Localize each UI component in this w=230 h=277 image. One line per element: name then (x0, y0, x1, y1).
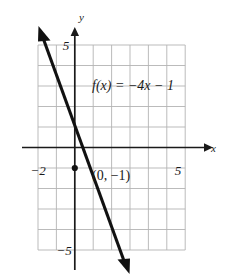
x-tick-label-5: 5 (175, 163, 182, 178)
y-axis-label: y (78, 11, 84, 23)
x-axis-label: x (210, 142, 216, 154)
point-marker-y-intercept (72, 165, 78, 171)
x-tick-label-neg2: −2 (30, 163, 46, 178)
point-annotation-label: (0, −1) (92, 168, 131, 184)
graph-figure: x y −2 5 5 −5 f(x) = −4x − 1 (0, −1) (0, 0, 230, 277)
y-tick-label-neg5: −5 (56, 243, 72, 258)
coordinate-plane-graph: x y −2 5 5 −5 f(x) = −4x − 1 (0, −1) (0, 0, 230, 277)
y-tick-label-5: 5 (63, 38, 70, 53)
equation-annotation: f(x) = −4x − 1 (92, 78, 174, 94)
